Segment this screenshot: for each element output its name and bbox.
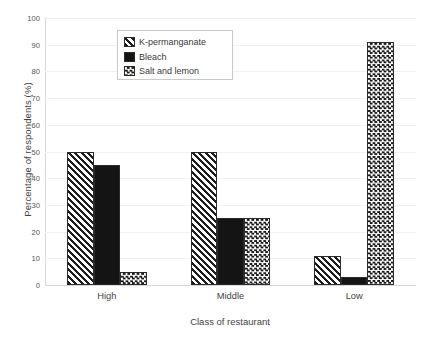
y-axis-tick-label: 80 (6, 67, 40, 76)
y-axis-tick-label: 90 (6, 40, 40, 49)
x-axis-tick-label-middle: Middle (217, 291, 244, 301)
bar-group-low (314, 18, 394, 285)
bar-high-k-permanganate (67, 152, 94, 286)
y-axis-tick-label: 0 (6, 281, 40, 290)
bar-low-salt-and-lemon (367, 42, 394, 285)
y-axis-tick-label: 30 (6, 200, 40, 209)
y-axis-tick-labels: 0102030405060708090100 (0, 18, 40, 285)
y-axis-tick-label: 70 (6, 94, 40, 103)
bar-chart: Percentage of respondents (%) 0102030405… (0, 0, 421, 338)
bar-middle-salt-and-lemon (244, 218, 271, 285)
y-axis-tick-label: 50 (6, 147, 40, 156)
y-axis-tick-label: 20 (6, 227, 40, 236)
y-axis-tick-label: 60 (6, 120, 40, 129)
legend-item: Bleach (124, 50, 227, 64)
bar-middle-bleach (217, 218, 244, 285)
bar-high-bleach (94, 165, 121, 285)
legend-item: Salt and lemon (124, 64, 227, 78)
x-axis-tick-label-high: High (97, 291, 116, 301)
bar-low-bleach (341, 277, 368, 285)
legend-label: Salt and lemon (139, 66, 199, 76)
legend-swatch-icon (124, 66, 135, 76)
legend-swatch-icon (124, 52, 135, 62)
chart-legend: K-permanganateBleachSalt and lemon (117, 30, 233, 80)
legend-label: K-permanganate (139, 37, 206, 47)
bar-low-k-permanganate (314, 256, 341, 285)
y-axis-tick-label: 100 (6, 14, 40, 23)
bar-high-salt-and-lemon (120, 272, 147, 285)
legend-item: K-permanganate (124, 35, 227, 49)
x-axis-title: Class of restaurant (44, 316, 416, 327)
gridline (45, 285, 416, 286)
y-axis-tick-label: 40 (6, 174, 40, 183)
x-axis-tick-label-low: Low (346, 291, 363, 301)
legend-swatch-icon (124, 37, 135, 47)
legend-label: Bleach (139, 52, 167, 62)
y-axis-tick-label: 10 (6, 254, 40, 263)
bar-middle-k-permanganate (191, 152, 218, 286)
